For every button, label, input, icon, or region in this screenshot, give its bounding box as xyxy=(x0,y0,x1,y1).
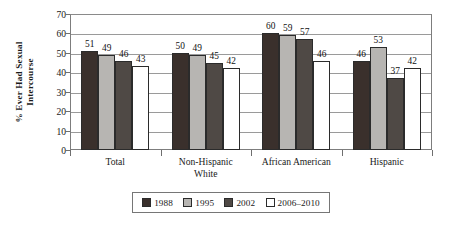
bar-value-label: 49 xyxy=(102,43,111,53)
legend: 1988199520022006–2010 xyxy=(132,192,330,213)
y-axis-tick-label: 70 xyxy=(40,9,66,20)
bar-value-label: 50 xyxy=(176,41,185,51)
bar: 46 xyxy=(115,61,132,150)
bar-group: 50494542 xyxy=(161,14,252,150)
bar: 46 xyxy=(353,61,370,150)
bar-group: 51494643 xyxy=(70,14,161,150)
legend-label: 1988 xyxy=(154,198,173,208)
legend-label: 2006–2010 xyxy=(278,198,320,208)
legend-swatch-icon xyxy=(183,198,192,207)
bar-value-label: 46 xyxy=(357,49,366,59)
x-axis-category-label: Hispanic xyxy=(370,156,404,168)
bar: 37 xyxy=(387,78,404,150)
x-axis-category-label-line: White xyxy=(179,168,233,180)
x-axis-tick-mark xyxy=(70,150,71,156)
legend-label: 2002 xyxy=(236,198,255,208)
y-axis-tick-label: 10 xyxy=(40,125,66,136)
bar-value-label: 42 xyxy=(227,56,236,66)
bar-value-label: 46 xyxy=(119,49,128,59)
legend-swatch-icon xyxy=(224,198,233,207)
y-axis-tick-label: 50 xyxy=(40,47,66,58)
x-axis-category-label-line: Non-Hispanic xyxy=(179,156,233,168)
bar-value-label: 43 xyxy=(136,54,145,64)
legend-label: 1995 xyxy=(195,198,214,208)
bar-group: 46533742 xyxy=(342,14,433,150)
y-axis-tick-label: 30 xyxy=(40,86,66,97)
y-axis-tick-label: 20 xyxy=(40,106,66,117)
bar: 49 xyxy=(189,55,206,150)
y-axis-tick-label: 40 xyxy=(40,67,66,78)
legend-item[interactable]: 1988 xyxy=(142,198,173,208)
bar: 42 xyxy=(223,68,240,150)
bar: 51 xyxy=(81,51,98,150)
bar-group: 60595746 xyxy=(251,14,342,150)
legend-item[interactable]: 2006–2010 xyxy=(266,198,320,208)
bar-value-label: 57 xyxy=(300,27,309,37)
legend-item[interactable]: 2002 xyxy=(224,198,255,208)
bar: 42 xyxy=(404,68,421,150)
x-axis-category-label: Non-HispanicWhite xyxy=(179,156,233,179)
bar: 49 xyxy=(98,55,115,150)
bar-value-label: 51 xyxy=(85,39,94,49)
y-axis-title-line-1: % Ever Had Sexual xyxy=(14,41,25,122)
x-axis-tick-mark xyxy=(342,150,343,156)
bar-value-label: 46 xyxy=(317,49,326,59)
x-axis-category-label: Total xyxy=(105,156,125,168)
bar: 53 xyxy=(370,47,387,150)
bar: 50 xyxy=(172,53,189,150)
y-axis-tick-label: 0 xyxy=(40,145,66,156)
y-axis-tick-label: 60 xyxy=(40,28,66,39)
y-axis-title-line-2: Intercourse xyxy=(25,41,36,122)
x-axis-tick-mark xyxy=(432,150,433,156)
bar-value-label: 53 xyxy=(374,35,383,45)
bar: 46 xyxy=(313,61,330,150)
bar-value-label: 49 xyxy=(193,43,202,53)
bar-value-label: 60 xyxy=(266,21,275,31)
y-axis-title: % Ever Had Sexual Intercourse xyxy=(8,14,42,150)
bar: 60 xyxy=(262,33,279,150)
bar-value-label: 42 xyxy=(408,56,417,66)
x-axis-tick-mark xyxy=(251,150,252,156)
bar-groups: 51494643504945426059574646533742 xyxy=(70,14,432,150)
bar-value-label: 59 xyxy=(283,23,292,33)
legend-item[interactable]: 1995 xyxy=(183,198,214,208)
bar-chart: % Ever Had Sexual Intercourse 0102030405… xyxy=(0,0,451,227)
x-axis-category-label-line: Total xyxy=(105,156,125,168)
bar: 45 xyxy=(206,63,223,150)
bar-value-label: 45 xyxy=(210,51,219,61)
x-axis-category-label-line: Hispanic xyxy=(370,156,404,168)
x-axis-tick-mark xyxy=(161,150,162,156)
bar: 43 xyxy=(132,66,149,150)
x-axis-category-label: African American xyxy=(262,156,331,168)
bar: 57 xyxy=(296,39,313,150)
legend-swatch-icon xyxy=(266,198,275,207)
bar: 59 xyxy=(279,35,296,150)
bar-value-label: 37 xyxy=(391,66,400,76)
legend-swatch-icon xyxy=(142,198,151,207)
x-axis-category-label-line: African American xyxy=(262,156,331,168)
